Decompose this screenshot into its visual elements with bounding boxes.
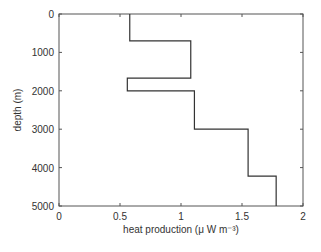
- y-tick-label: 5000: [32, 201, 55, 212]
- y-tick-label: 1000: [32, 47, 55, 58]
- heat-production-depth-chart: 00.511.52010002000300040005000 heat prod…: [0, 0, 321, 252]
- y-axis-label: depth (m): [12, 89, 23, 132]
- heat-production-profile-line: [127, 14, 276, 206]
- x-tick-label: 0: [56, 211, 62, 222]
- x-tick-label: 1: [178, 211, 184, 222]
- y-tick-label: 4000: [32, 163, 55, 174]
- x-axis-label: heat production (μ W m⁻³): [123, 224, 239, 235]
- y-tick-label: 0: [48, 9, 54, 20]
- x-tick-label: 0.5: [113, 211, 127, 222]
- x-tick-label: 1.5: [235, 211, 249, 222]
- plot-axes: [59, 14, 303, 206]
- plot-frame: [59, 14, 303, 206]
- y-tick-label: 3000: [32, 124, 55, 135]
- y-tick-label: 2000: [32, 86, 55, 97]
- x-tick-label: 2: [300, 211, 306, 222]
